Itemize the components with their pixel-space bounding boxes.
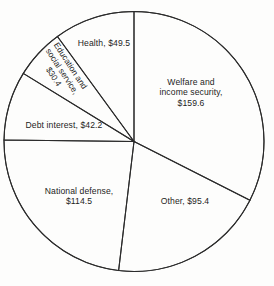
pie-slice (119, 142, 250, 272)
slice-label-debt-interest: Debt interest, $42.2 (12, 120, 116, 130)
pie-chart: Welfare and income security, $159.6 Othe… (0, 0, 274, 286)
slice-label-other: Other, $95.4 (143, 196, 227, 206)
slice-label-health: Health, $49.5 (66, 38, 142, 48)
slice-label-national-defense: National defense, $114.5 (29, 186, 129, 207)
slice-label-welfare-and-income-security: Welfare and income security, $159.6 (145, 77, 237, 108)
